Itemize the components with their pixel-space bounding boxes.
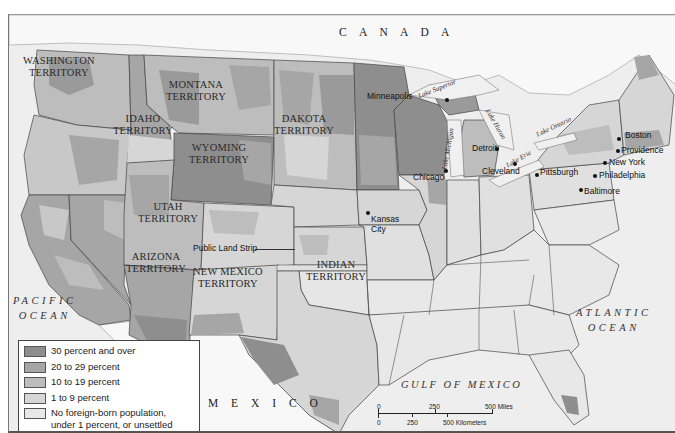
cleveland-label: Cleveland [482,166,520,176]
canada-label: C A N A D A [339,26,454,38]
kansas-city-label: Kansas City [371,214,399,234]
legend-swatch [24,408,46,419]
legend-item-none: No foreign-born population, under 1 perc… [24,407,194,433]
legend-swatch [24,362,46,373]
scale-line [378,413,493,414]
washington-territory-label: WASHINGTON TERRITORY [23,55,95,79]
montana-territory-label: MONTANA TERRITORY [166,79,226,103]
legend: 30 percent and over 20 to 29 percent 10 … [18,340,200,433]
new-mexico-territory-label: NEW MEXICO TERRITORY [193,266,263,290]
boston-dot [617,137,621,141]
legend-swatch [24,346,46,357]
detroit-label: Detroit [472,143,497,153]
wyoming-territory-label: WYOMING TERRITORY [189,142,249,166]
legend-swatch [24,393,46,404]
legend-item-20-29: 20 to 29 percent [24,361,194,377]
new-york-label: New York [609,157,645,167]
boston-label: Boston [625,130,651,140]
pittsburgh-label: Pittsburgh [540,167,578,177]
baltimore-label: Baltimore [584,186,620,196]
map-frame: C A N A D A M E X I C O PACIFIC OCEAN AT… [8,14,675,433]
pacific-ocean-label: PACIFIC OCEAN [13,293,76,323]
philadelphia-label: Philadelphia [599,170,645,180]
legend-item-30-plus: 30 percent and over [24,345,194,361]
scale-bar: 0 250 500 Miles 0 250 500 Kilometers [377,403,517,433]
baltimore-dot [579,188,583,192]
public-land-strip-leader [255,249,295,250]
minneapolis-dot [445,98,449,102]
providence-label: Providence [621,145,664,155]
providence-dot [616,149,620,153]
gulf-of-mexico-label: GULF OF MEXICO [401,377,522,392]
pittsburgh-dot [535,173,539,177]
atlantic-ocean-label: ATLANTIC OCEAN [576,305,651,335]
legend-swatch [24,377,46,388]
dakota-territory-label: DAKOTA TERRITORY [274,113,334,137]
legend-item-10-19: 10 to 19 percent [24,376,194,392]
public-land-strip-label: Public Land Strip [193,243,257,253]
mexico-label: M E X I C O [208,397,323,409]
kansas-city-dot [366,211,370,215]
chicago-dot [444,169,448,173]
legend-item-1-9: 1 to 9 percent [24,392,194,408]
idaho-territory-label: IDAHO TERRITORY [113,113,173,137]
minneapolis-label: Minneapolis [367,91,412,101]
indian-territory-label: INDIAN TERRITORY [306,259,366,283]
new-york-dot [603,161,607,165]
arizona-territory-label: ARIZONA TERRITORY [126,251,186,275]
chicago-label: Chicago [413,172,444,182]
indiana [447,180,481,265]
philadelphia-dot [593,174,597,178]
utah-territory-label: UTAH TERRITORY [138,201,198,225]
